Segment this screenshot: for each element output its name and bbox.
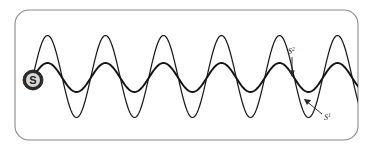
source-disc: S bbox=[23, 70, 43, 90]
wave-path-s1 bbox=[33, 36, 362, 118]
source-label: S bbox=[29, 74, 36, 86]
annotation-s1: S1 bbox=[304, 99, 331, 122]
diagram-canvas: S S2 S1 bbox=[0, 0, 370, 154]
wave-diagram-figure: S S2 S1 bbox=[0, 0, 370, 154]
rounded-rectangle-frame bbox=[15, 10, 358, 140]
wave-group bbox=[33, 36, 362, 118]
wave-path-s2 bbox=[33, 63, 362, 92]
annotation-s1-leader-line bbox=[308, 103, 322, 115]
annotation-s2-label: S2 bbox=[288, 46, 295, 56]
annotation-s1-label: S1 bbox=[324, 112, 331, 122]
annotation-s2: S2 bbox=[288, 46, 295, 77]
